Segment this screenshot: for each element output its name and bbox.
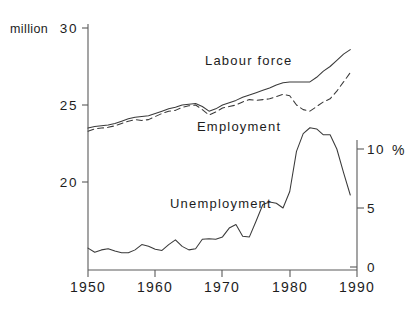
left-tick-label-20: 20 [60,175,78,190]
left-axis-ticks: 30 25 20 [60,21,88,190]
x-tick-label-1970: 1970 [204,279,240,295]
x-tick-label-1980: 1980 [272,279,308,295]
left-axis-unit-label: million [10,22,48,36]
x-tick-label-1990: 1990 [339,279,375,295]
right-axis-ticks: 10 5 0 [350,142,385,275]
right-tick-label-10: 10 [367,142,385,157]
right-tick-label-0: 0 [367,260,376,275]
left-tick-label-30: 30 [60,21,78,36]
employment-label: Employment [197,119,281,134]
right-axis-unit-label: % [392,142,405,158]
x-axis-ticks: 1950 1960 1970 1980 1990 [70,270,375,295]
chart-canvas: 30 25 20 10 5 0 1950 1960 1970 1980 1990 [0,0,420,316]
x-tick-label-1950: 1950 [70,279,106,295]
unemployment-label: Unemployment [170,196,272,211]
labour-force-label: Labour force [205,53,292,68]
left-tick-label-25: 25 [60,98,78,113]
x-tick-label-1960: 1960 [137,279,173,295]
unemployment-line [88,128,350,253]
right-tick-label-5: 5 [367,201,376,216]
employment-chart: 30 25 20 10 5 0 1950 1960 1970 1980 1990 [0,0,420,316]
